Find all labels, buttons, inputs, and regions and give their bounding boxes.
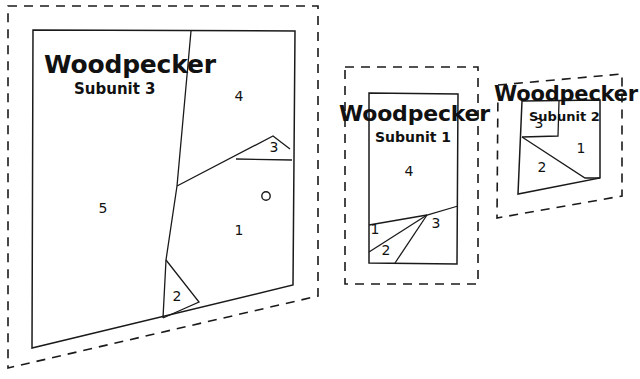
stand-label: 4 bbox=[405, 163, 414, 179]
unit-subtitle-subunit-1: Subunit 1 bbox=[375, 130, 451, 144]
stand-label: 2 bbox=[538, 159, 547, 175]
stand-label: 5 bbox=[99, 200, 108, 216]
stand-label: 4 bbox=[235, 88, 244, 104]
stand-label: 3 bbox=[432, 215, 441, 231]
stand-label: 3 bbox=[270, 139, 279, 155]
unit-title-subunit-1: Woodpecker bbox=[339, 103, 490, 125]
unit-title-subunit-2: Woodpecker bbox=[494, 84, 638, 105]
unit-subunit-1: 1 2 3 4 bbox=[345, 67, 478, 284]
stand-label: 2 bbox=[173, 288, 182, 304]
figure-canvas: 1 2 3 4 5 1 2 3 4 1 2 3 bbox=[0, 0, 640, 379]
unit-title-subunit-3: Woodpecker bbox=[44, 52, 216, 77]
stand-label: 1 bbox=[235, 222, 244, 238]
stand-label: 1 bbox=[577, 140, 586, 156]
stand-label: 1 bbox=[371, 221, 380, 237]
unit-subtitle-subunit-2: Subunit 2 bbox=[529, 110, 600, 123]
unit-subtitle-subunit-3: Subunit 3 bbox=[74, 82, 156, 97]
stand-label: 2 bbox=[382, 242, 391, 258]
